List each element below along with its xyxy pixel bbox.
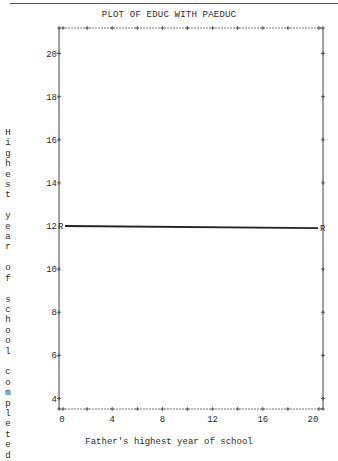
- y-tick-label: 18: [46, 93, 57, 103]
- y-tick-label: 12: [46, 222, 57, 232]
- marker-r-left: R: [58, 222, 64, 232]
- x-tick-label: 4: [109, 415, 114, 425]
- x-tick-label: 20: [308, 415, 319, 425]
- x-tick-label: 16: [257, 415, 268, 425]
- y-tick-label: 6: [52, 351, 57, 361]
- y-tick-label: 20: [46, 50, 57, 60]
- x-tick-label: 8: [160, 415, 165, 425]
- x-axis-label: Father's highest year of school: [0, 437, 338, 447]
- y-tick-label: 16: [46, 136, 57, 146]
- x-tick-label: 12: [207, 415, 218, 425]
- regression-line: [65, 226, 318, 228]
- y-tick-label: 14: [46, 179, 57, 189]
- x-tick-label: 0: [59, 415, 64, 425]
- y-tick-label: 8: [52, 308, 57, 318]
- y-tick-label: 10: [46, 265, 57, 275]
- marker-r-right: R: [320, 224, 326, 234]
- y-tick-label: 4: [52, 395, 57, 405]
